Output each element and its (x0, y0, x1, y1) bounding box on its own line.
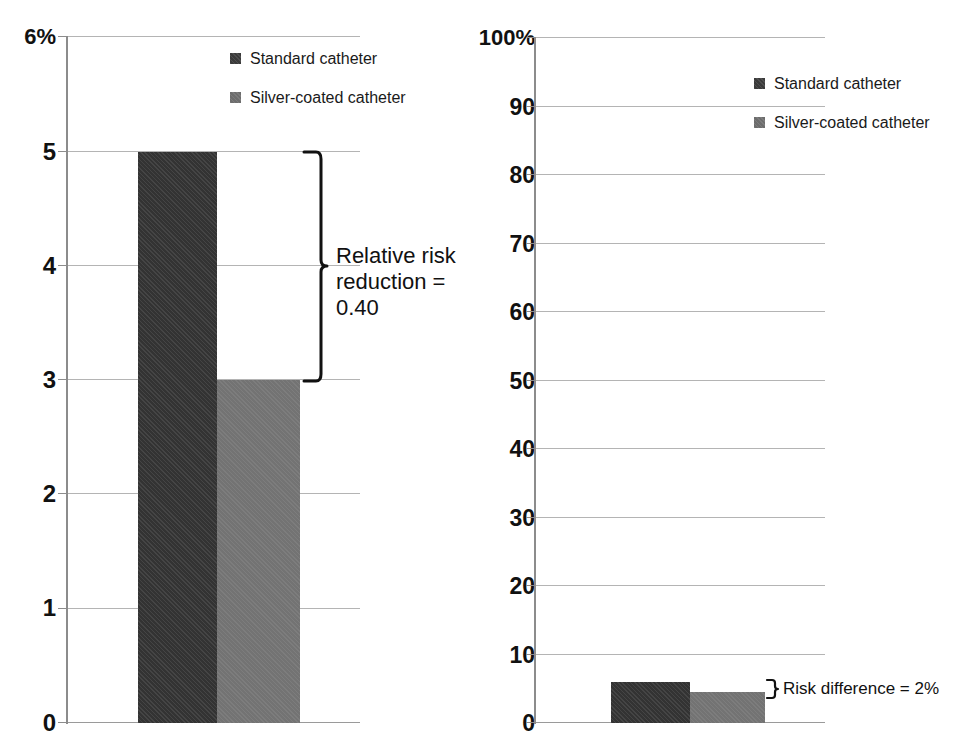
gridline-right-80 (535, 174, 825, 175)
gridline-right-30 (535, 517, 825, 518)
legend-label-standard: Standard catheter (774, 75, 901, 93)
legend-label-silver: Silver-coated catheter (250, 89, 406, 107)
right-chart-panel: 100% 90 80 70 60 50 40 30 20 10 0 (470, 0, 961, 751)
y-tick-label-right-60: 60 (509, 301, 535, 324)
two-panel-bar-figure: 6% 5 4 3 2 1 0 Standard catheter (0, 0, 961, 751)
y-axis-line-right (534, 37, 536, 724)
bar-standard-left (138, 152, 217, 723)
legend-item-standard: Standard catheter (230, 50, 406, 68)
y-tick-label-left-4: 4 (43, 254, 56, 278)
bar-silver-right (690, 692, 765, 723)
gridline-right-10 (535, 654, 825, 655)
gridline-right-60 (535, 311, 825, 312)
y-tick-label-right-30: 30 (509, 507, 535, 530)
legend-swatch-standard-icon (230, 53, 241, 64)
y-tick-label-left-6: 6% (24, 26, 56, 48)
legend-swatch-silver-icon (754, 117, 765, 128)
relative-risk-bracket-icon (300, 148, 334, 386)
bar-standard-right (611, 682, 690, 723)
y-tick-label-left-3: 3 (43, 368, 56, 392)
legend-label-standard: Standard catheter (250, 50, 377, 68)
y-tick-label-right-50: 50 (509, 370, 535, 393)
y-axis-line-left (66, 36, 68, 724)
gridline-right-20 (535, 585, 825, 586)
gridline-left-6 (67, 36, 360, 37)
y-tick-label-right-90: 90 (509, 96, 535, 119)
y-tick-label-right-40: 40 (509, 438, 535, 461)
y-tick-label-right-20: 20 (509, 575, 535, 598)
left-chart-panel: 6% 5 4 3 2 1 0 Standard catheter (0, 0, 470, 751)
y-tick-label-right-100: 100% (479, 27, 535, 49)
y-tick-label-left-0: 0 (43, 711, 56, 735)
y-tick-label-left-2: 2 (43, 482, 56, 506)
legend-right: Standard catheter Silver-coated catheter (754, 75, 930, 131)
legend-swatch-standard-icon (754, 78, 765, 89)
y-tick-label-right-10: 10 (509, 644, 535, 667)
legend-label-silver: Silver-coated catheter (774, 114, 930, 132)
risk-difference-annotation-text: Risk difference = 2% (783, 679, 939, 699)
legend-item-standard: Standard catheter (754, 75, 930, 93)
y-tick-label-left-5: 5 (43, 140, 56, 164)
risk-difference-bracket-icon (764, 678, 782, 700)
legend-left: Standard catheter Silver-coated catheter (230, 50, 406, 106)
relative-risk-annotation-text: Relative risk reduction = 0.40 (336, 243, 470, 321)
gridline-right-70 (535, 243, 825, 244)
legend-item-silver: Silver-coated catheter (230, 89, 406, 107)
gridline-right-100 (535, 37, 825, 38)
legend-item-silver: Silver-coated catheter (754, 114, 930, 132)
y-tick-label-right-70: 70 (509, 233, 535, 256)
gridline-right-50 (535, 380, 825, 381)
gridline-right-40 (535, 448, 825, 449)
bar-silver-left (217, 380, 300, 723)
y-tick-label-right-80: 80 (509, 164, 535, 187)
legend-swatch-silver-icon (230, 92, 241, 103)
y-tick-label-left-1: 1 (43, 596, 56, 620)
